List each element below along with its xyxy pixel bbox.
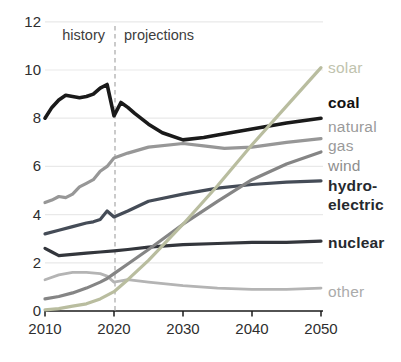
x-tick-label-2020: 2020 xyxy=(91,320,137,338)
y-tick-label-0: 0 xyxy=(0,302,41,320)
projections-annotation: projections xyxy=(124,27,194,44)
y-tick-label-12: 12 xyxy=(0,13,41,31)
series-label-solar: solar xyxy=(328,58,363,77)
y-tick-label-4: 4 xyxy=(0,206,41,224)
x-tick-label-2030: 2030 xyxy=(160,320,206,338)
y-tick-label-10: 10 xyxy=(0,61,41,79)
x-tick-label-2010: 2010 xyxy=(22,320,68,338)
energy-line-chart: 024681012 20102020203020402050 history p… xyxy=(0,0,401,362)
series-label-nuclear: nuclear xyxy=(328,233,385,252)
series-line-nuclear xyxy=(45,241,321,256)
series-label-other: other xyxy=(328,282,364,301)
series-label-coal: coal xyxy=(328,93,360,112)
x-tick-label-2050: 2050 xyxy=(298,320,344,338)
x-tick-label-2040: 2040 xyxy=(229,320,275,338)
series-label-hydroelectric: hydro- electric xyxy=(328,176,384,214)
series-label-wind: wind xyxy=(328,156,361,175)
y-tick-label-2: 2 xyxy=(0,254,41,272)
history-annotation: history xyxy=(45,27,105,44)
y-tick-label-8: 8 xyxy=(0,109,41,127)
series-label-natural_gas: natural gas xyxy=(328,117,377,155)
y-tick-label-6: 6 xyxy=(0,157,41,175)
